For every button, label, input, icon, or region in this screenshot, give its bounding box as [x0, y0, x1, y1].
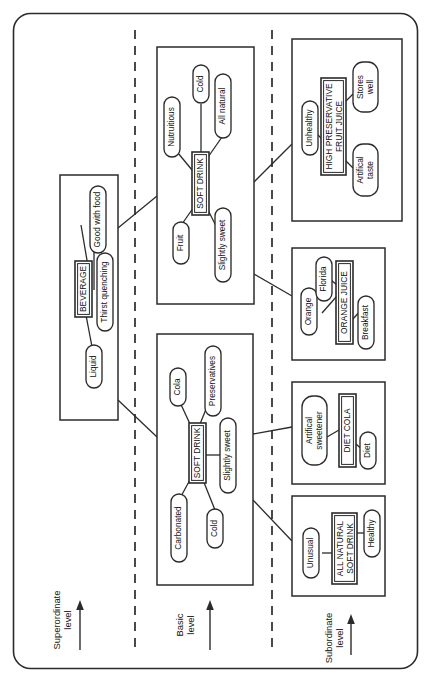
node-cola-concept: SOFT DRINK: [189, 423, 206, 483]
node-hpfj-concept-line2: FRUIT JUICE: [334, 101, 344, 152]
figure-root: BEVERAGE Good with food Thirst quenching…: [0, 0, 429, 682]
cluster-orange-juice: ORANGE JUICE Orange Florida Breakfast: [292, 248, 385, 360]
node-dc-diet: Diet: [360, 432, 376, 469]
cluster-soft-drink-juice: SOFT DRINK Nutruitious Cold All natural: [157, 47, 254, 304]
node-ansd-concept: ALL NATURAL SOFT DRINK: [332, 513, 357, 584]
node-dc-artifical-sweetener: Artifical sweetener: [302, 396, 327, 465]
node-dc-concept: DIET COLA: [339, 394, 356, 467]
level-basic: Basic level: [174, 600, 213, 650]
cluster-beverage: BEVERAGE Good with food Thirst quenching…: [60, 175, 118, 420]
node-hpfj-stores-well-line2: well: [365, 80, 375, 95]
node-cola-concept-label: SOFT DRINK: [192, 427, 202, 478]
level-superordinate-label-line2: level: [62, 610, 73, 629]
bridge-beverage-to-juice: [118, 196, 157, 228]
node-ansd-healthy: Healthy: [364, 510, 380, 557]
node-cola-preservatives: Preservatives: [205, 346, 221, 416]
cluster-soft-drink-cola: SOFT DRINK Cola Preservatives Slightly s…: [157, 334, 253, 585]
node-oj-breakfast: Breakfast: [358, 296, 374, 349]
node-juice-slightly-sweet-label: Slightly sweet: [217, 219, 227, 270]
node-hpfj-artifical-taste-line2: taste: [365, 161, 375, 179]
node-hpfj-stores-well: Stores well: [353, 62, 378, 112]
node-cola-cold-label: Cold: [209, 520, 219, 537]
semantic-network-diagram: BEVERAGE Good with food Thirst quenching…: [0, 0, 429, 682]
bridge-juice-to-hpfj: [254, 144, 292, 182]
node-ansd-concept-line1: ALL NATURAL: [335, 520, 345, 576]
node-cola-preservatives-label: Preservatives: [207, 356, 217, 406]
node-juice-all-natural-label: All natural: [217, 87, 227, 124]
node-cola-cola: Cola: [170, 368, 186, 406]
bridge-juice-to-orange-juice: [254, 274, 292, 296]
node-juice-fruit-label: Fruit: [175, 234, 185, 251]
node-cola-slightly-sweet-label: Slightly sweet: [222, 429, 232, 480]
node-oj-breakfast-label: Breakfast: [360, 304, 370, 340]
node-oj-concept-label: ORANGE JUICE: [339, 271, 349, 334]
node-dc-artifical-sweetener-line1: Artifical: [304, 417, 314, 444]
node-dc-concept-label: DIET COLA: [342, 408, 352, 452]
level-basic-arrow-head: [206, 600, 214, 610]
node-ansd-unusual-label: Unusual: [305, 538, 315, 569]
level-basic-label-line2: level: [185, 615, 196, 634]
node-beverage-good-with-food-label: Good with food: [92, 191, 102, 247]
node-cola-carbonated: Carbonated: [171, 494, 187, 562]
node-dc-artifical-sweetener-line2: sweetener: [314, 411, 324, 450]
node-oj-concept: ORANGE JUICE: [336, 261, 353, 344]
node-cola-cola-label: Cola: [172, 378, 182, 395]
node-beverage-liquid-label: Liquid: [88, 355, 98, 378]
level-basic-label-line1: Basic: [174, 613, 185, 636]
node-juice-all-natural: All natural: [215, 74, 231, 138]
cluster-diet-cola: DIET COLA Artifical sweetener Diet: [292, 382, 385, 484]
node-hpfj-artifical-taste: Artifical taste: [353, 144, 378, 196]
node-hpfj-concept: HIGH PRESERVATIVE FRUIT JUICE: [321, 78, 346, 175]
level-subordinate-label-line2: level: [334, 628, 345, 647]
node-hpfj-concept-line1: HIGH PRESERVATIVE: [324, 83, 334, 170]
node-cola-carbonated-label: Carbonated: [173, 506, 183, 550]
level-superordinate-arrow-head: [76, 600, 84, 610]
node-ansd-concept-line2: SOFT DRINK: [345, 523, 355, 574]
cluster-all-natural-soft-drink: ALL NATURAL SOFT DRINK Unusual Healthy: [292, 496, 385, 596]
node-juice-concept-label: SOFT DRINK: [195, 158, 205, 209]
level-superordinate: Superordinate level: [51, 591, 83, 650]
node-oj-florida: Florida: [316, 257, 332, 301]
node-juice-slightly-sweet: Slightly sweet: [215, 208, 231, 282]
node-hpfj-unhealthy-label: Unhealthy: [304, 108, 314, 146]
node-beverage-concept: BEVERAGE: [75, 261, 92, 317]
node-juice-concept: SOFT DRINK: [192, 152, 209, 215]
node-juice-cold: Cold: [193, 65, 209, 103]
level-subordinate-label-line1: Subordinate: [323, 613, 334, 664]
node-juice-nutruitious-label: Nutruitious: [166, 107, 176, 147]
node-juice-nutruitious: Nutruitious: [164, 97, 180, 157]
node-beverage-thirst-quenching-label: Thirst quenching: [99, 261, 109, 323]
diagram-stage: BEVERAGE Good with food Thirst quenching…: [0, 0, 429, 682]
node-beverage-good-with-food: Good with food: [90, 186, 106, 253]
node-juice-cold-label: Cold: [195, 75, 205, 92]
node-beverage-concept-label: BEVERAGE: [78, 266, 88, 312]
bridge-beverage-to-cola: [118, 400, 157, 437]
node-dc-diet-label: Diet: [362, 442, 372, 457]
node-cola-slightly-sweet: Slightly sweet: [220, 418, 236, 493]
node-oj-orange: Orange: [301, 288, 317, 335]
node-oj-florida-label: Florida: [318, 266, 328, 292]
node-juice-fruit: Fruit: [173, 222, 189, 264]
cluster-high-preservative-fruit-juice: HIGH PRESERVATIVE FRUIT JUICE Unhealthy …: [292, 39, 402, 221]
node-beverage-liquid: Liquid: [86, 345, 102, 388]
node-hpfj-artifical-taste-line1: Artifical: [355, 156, 365, 183]
node-beverage-thirst-quenching: Thirst quenching: [97, 253, 113, 331]
node-oj-orange-label: Orange: [303, 297, 313, 325]
node-ansd-healthy-label: Healthy: [366, 519, 376, 548]
node-hpfj-stores-well-line1: Stores: [355, 75, 365, 99]
node-hpfj-unhealthy: Unhealthy: [302, 101, 318, 155]
level-subordinate: Subordinate level: [323, 613, 354, 664]
node-cola-cold: Cold: [207, 509, 223, 548]
level-subordinate-arrow-head: [347, 614, 355, 624]
level-superordinate-label-line1: Superordinate: [51, 591, 62, 650]
node-ansd-unusual: Unusual: [303, 528, 319, 578]
